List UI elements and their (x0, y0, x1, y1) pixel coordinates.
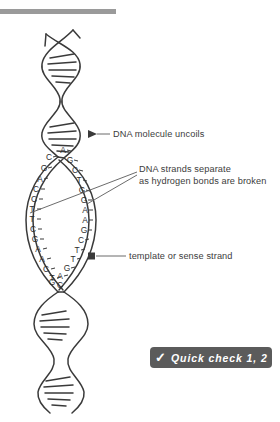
callout-dna-strands-separate: DNA strands separate as hydrogen bonds a… (139, 163, 266, 187)
callout-template-or-sense-strand: template or sense strand (129, 250, 233, 262)
base-letter: A (37, 174, 43, 184)
top-coiled-helix (42, 30, 80, 158)
base-letter: A (57, 271, 63, 281)
base-letter: C (78, 235, 84, 245)
base-letter: C (43, 264, 49, 274)
left-strand-bases: C G A C C T T C G A A C T C (29, 152, 63, 290)
base-letter: C (72, 165, 78, 175)
page-root: C G A C C T T C G A A C T C A (0, 0, 280, 422)
base-letter: C (57, 280, 63, 290)
arrowhead-uncoils (88, 130, 97, 138)
callout-line: DNA molecule uncoils (113, 128, 204, 140)
base-letter: A (60, 145, 66, 155)
base-letter: G (41, 163, 48, 173)
base-letter: C (31, 194, 37, 204)
base-letter: T (29, 214, 34, 224)
base-letter: A (35, 244, 41, 254)
bottom-coiled-helix (34, 292, 88, 413)
quick-check-badge[interactable]: ✓ Quick check 1, 2 (150, 347, 272, 368)
check-icon: ✓ (155, 351, 166, 364)
leader-line-separate-right (87, 175, 137, 204)
base-letter: A (82, 205, 88, 215)
base-letter: C (46, 152, 52, 162)
base-letter: T (76, 175, 81, 185)
arrowhead-template (88, 253, 95, 260)
callout-line: template or sense strand (129, 250, 233, 262)
base-letter: G (67, 155, 74, 165)
base-letter: G (32, 234, 39, 244)
quick-check-label: Quick check 1, 2 (171, 352, 268, 364)
callout-dna-molecule-uncoils: DNA molecule uncoils (113, 128, 204, 140)
base-letter: T (70, 254, 75, 264)
base-letter: G (81, 225, 88, 235)
base-letter: G (81, 195, 88, 205)
callout-line: DNA strands separate (139, 163, 266, 175)
base-letter: C (33, 184, 39, 194)
callout-line: as hydrogen bonds are broken (139, 175, 266, 187)
base-letter: C (30, 224, 36, 234)
base-letter: A (82, 215, 88, 225)
base-letter: G (49, 277, 56, 287)
base-letter: A (39, 254, 45, 264)
base-letter: G (64, 263, 71, 273)
